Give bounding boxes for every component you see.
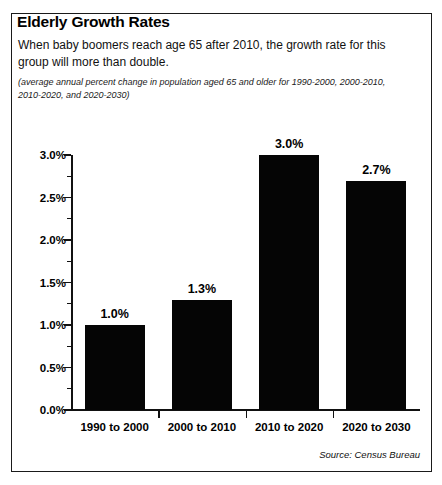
x-axis-category-label: 1990 to 2000 — [80, 421, 148, 433]
y-axis-major-tick — [64, 197, 71, 198]
y-axis-tick-label: 0.5% — [40, 362, 66, 374]
y-axis-tick-label: 1.0% — [40, 319, 66, 331]
y-axis-tick-label: 0.0% — [40, 404, 66, 416]
figure-description: When baby boomers reach age 65 after 201… — [18, 37, 408, 71]
bar — [259, 155, 319, 410]
bar — [172, 300, 232, 411]
x-axis-category-label: 2020 to 2030 — [342, 421, 410, 433]
x-axis-category-label: 2010 to 2020 — [255, 421, 323, 433]
y-axis-major-tick — [64, 367, 71, 368]
y-axis-minor-tick — [67, 303, 71, 304]
bar-value-label: 1.0% — [100, 307, 129, 321]
bar-chart: 0.0%0.5%1.0%1.5%2.0%2.5%3.0% 1.0%1.3%3.0… — [60, 140, 420, 415]
bar-value-label: 1.3% — [188, 282, 217, 296]
source-attribution: Source: Census Bureau — [319, 449, 420, 460]
page-title: Elderly Growth Rates — [17, 13, 170, 31]
y-axis-major-tick — [64, 154, 71, 155]
y-axis-minor-tick — [67, 218, 71, 219]
y-axis-tick-label: 1.5% — [40, 277, 66, 289]
x-axis-tick — [333, 410, 334, 418]
y-axis-tick-label: 2.0% — [40, 234, 66, 246]
y-axis-major-tick — [64, 282, 71, 283]
bar — [85, 325, 145, 410]
y-axis-minor-tick — [67, 261, 71, 262]
bar-value-label: 2.7% — [362, 163, 391, 177]
y-axis-major-tick — [64, 239, 71, 240]
figure-subnote: (average annual percent change in popula… — [18, 76, 408, 102]
y-axis-tick-label: 2.5% — [40, 192, 66, 204]
x-axis-category-label: 2000 to 2010 — [168, 421, 236, 433]
y-axis-major-tick — [64, 324, 71, 325]
x-axis-tick — [246, 410, 247, 418]
y-axis-minor-tick — [67, 176, 71, 177]
y-axis-minor-tick — [67, 388, 71, 389]
y-axis-line — [71, 155, 73, 410]
x-axis-tick — [158, 410, 159, 418]
y-axis-tick-label: 3.0% — [40, 149, 66, 161]
y-axis-minor-tick — [67, 346, 71, 347]
y-axis-major-tick — [64, 409, 71, 410]
bar — [346, 181, 406, 411]
bar-value-label: 3.0% — [275, 137, 304, 151]
